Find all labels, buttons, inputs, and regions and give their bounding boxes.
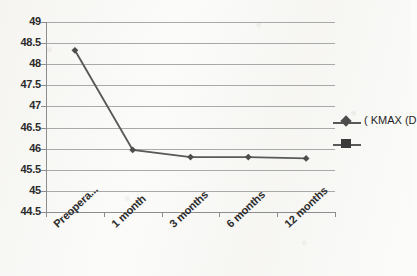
legend-item-label: ( KMAX (D xyxy=(364,114,417,126)
y-axis-tick xyxy=(41,43,46,44)
y-axis-tick xyxy=(41,22,46,23)
y-axis-tick xyxy=(41,106,46,107)
diamond-marker-icon xyxy=(340,115,351,126)
chart-legend: ( KMAX (D xyxy=(333,112,411,156)
legend-item-secondary[interactable] xyxy=(333,134,411,156)
y-axis-tick xyxy=(41,64,46,65)
y-axis-tick xyxy=(41,149,46,150)
data-point-marker[interactable] xyxy=(187,154,194,161)
y-axis-tick xyxy=(41,212,46,213)
data-point-marker[interactable] xyxy=(303,155,310,162)
y-axis-tick xyxy=(41,191,46,192)
square-marker-icon xyxy=(341,139,351,148)
legend-item-kmax[interactable]: ( KMAX (D xyxy=(333,112,411,134)
y-axis-tick xyxy=(41,128,46,129)
series-line xyxy=(75,50,306,158)
y-axis-tick xyxy=(41,85,46,86)
y-axis-tick xyxy=(41,170,46,171)
data-point-marker[interactable] xyxy=(245,154,252,161)
